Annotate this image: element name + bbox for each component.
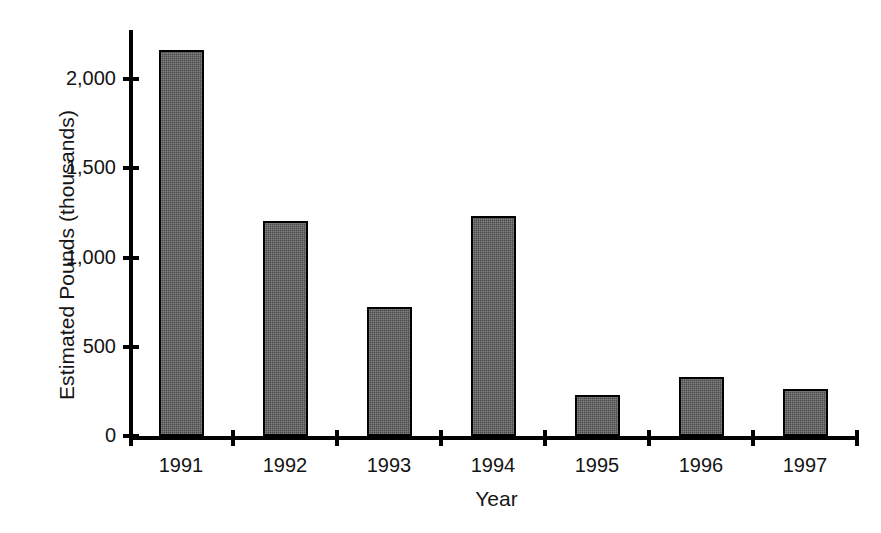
y-tick-mark [123,77,139,81]
x-axis-line [129,436,857,440]
x-tick-mark [439,430,443,446]
x-tick-label: 1991 [129,454,233,477]
y-tick-label: 2,000 [66,67,116,90]
x-axis-title-text: Year [475,487,517,510]
bar [159,50,204,436]
bar [783,389,828,436]
plot-area: 05001,0001,5002,000 19911992199319941995… [129,30,857,440]
x-axis-title: Year [0,487,881,511]
x-tick-label: 1993 [337,454,441,477]
y-tick-mark [123,166,139,170]
bar [575,395,620,436]
x-tick-mark [751,430,755,446]
x-tick-mark [335,430,339,446]
x-tick-label: 1994 [441,454,545,477]
x-tick-mark [543,430,547,446]
x-tick-mark [647,430,651,446]
bar-chart: Estimated Pounds (thousands) Year 05001,… [0,0,881,533]
x-tick-label: 1996 [649,454,753,477]
y-tick-label: 1,000 [66,246,116,269]
y-axis-line [129,30,133,440]
y-tick-label: 0 [105,424,116,447]
y-tick-mark [123,256,139,260]
bar [367,307,412,436]
x-tick-label: 1995 [545,454,649,477]
bar [679,377,724,436]
x-tick-label: 1992 [233,454,337,477]
bar [263,221,308,436]
y-tick-mark [123,345,139,349]
x-tick-label: 1997 [753,454,857,477]
x-tick-mark-origin [129,430,133,446]
x-tick-mark [231,430,235,446]
y-tick-label: 1,500 [66,156,116,179]
y-tick-label: 500 [83,335,116,358]
bar [471,216,516,436]
x-tick-mark [855,430,859,446]
